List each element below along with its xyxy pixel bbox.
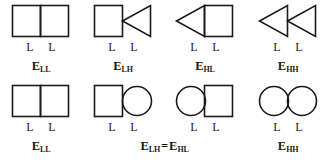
shape-pair-graphic [0, 82, 82, 120]
energy-equality-expression: ELH=EHL [140, 139, 188, 153]
sublabel-left: L [266, 120, 288, 134]
energy-label-row: EHL [164, 56, 246, 76]
shape-pair-graphic [0, 2, 82, 40]
energy-subscript-left: LH [149, 145, 160, 154]
sublabel-left: L [183, 40, 205, 54]
shape-pair-graphic [164, 2, 246, 40]
sublabel-right: L [123, 120, 145, 134]
energy-equality-label: ELH=EHL [82, 136, 247, 156]
energy-label-row: EHH [247, 136, 329, 156]
energy-base: E [32, 59, 40, 73]
shape-pair-graphic [82, 82, 164, 120]
energy-label: ELL [32, 139, 51, 153]
shape-pair-cell-ll-squares: L L ELL [0, 0, 82, 80]
sublabel-row: L L [0, 120, 82, 136]
square-triangle-left-icon [92, 2, 154, 40]
sublabel-left: L [101, 120, 123, 134]
shape-pair-cell-hl-triangle-square: L L EHL [164, 0, 246, 80]
sublabel-left: L [266, 40, 288, 54]
energy-label: EHL [195, 59, 215, 73]
sublabel-row: L L [0, 40, 82, 56]
energy-subscript: LH [122, 65, 133, 74]
energy-label: ELL [32, 59, 51, 73]
sublabel-right: L [288, 120, 310, 134]
energy-label-row: ELH [82, 56, 164, 76]
diagram-row-bottom: L L ELL L L [0, 80, 329, 160]
energy-base: E [278, 139, 286, 153]
shape-pair-cell-hh-triangles: L L EHH [247, 0, 329, 80]
energy-subscript-right: HL [177, 145, 188, 154]
sublabel-row: L L [164, 120, 246, 136]
shape-pair-cell-ll-squares-2: L L ELL [0, 80, 82, 160]
sublabel-row: L L [247, 120, 329, 136]
energy-state-shape-pairs-diagram: L L ELL L L ELH [0, 0, 329, 160]
sublabel-left: L [19, 120, 41, 134]
energy-base: E [113, 59, 121, 73]
energy-subscript: HH [286, 65, 298, 74]
sublabel-row: L L [164, 40, 246, 56]
energy-label: EHH [278, 59, 298, 73]
shape-pair-graphic [247, 82, 329, 120]
square-circle-icon [92, 82, 154, 120]
triangle-left-triangle-left-icon [257, 2, 319, 40]
sublabel-right: L [205, 40, 227, 54]
equals-sign: = [160, 139, 169, 153]
shape-pair-graphic [247, 2, 329, 40]
sublabel-right: L [41, 120, 63, 134]
energy-label-row: ELL [0, 136, 82, 156]
shape-pair-graphic [164, 82, 246, 120]
sublabel-row: L L [82, 40, 164, 56]
shape-pair-cell-lh-square-triangle: L L ELH [82, 0, 164, 80]
sublabel-left: L [183, 120, 205, 134]
sublabel-row: L L [82, 120, 164, 136]
energy-subscript: LL [40, 65, 50, 74]
energy-base: E [278, 59, 286, 73]
energy-label-row: EHH [247, 56, 329, 76]
diagram-row-top: L L ELL L L ELH [0, 0, 329, 80]
energy-subscript: HH [286, 145, 298, 154]
square-square-icon [10, 2, 72, 40]
sublabel-left: L [19, 40, 41, 54]
sublabel-right: L [205, 120, 227, 134]
energy-label: EHH [278, 139, 298, 153]
shape-pair-cell-hh-circles: L L EHH [247, 80, 329, 160]
circle-square-icon [174, 82, 236, 120]
energy-base: E [32, 139, 40, 153]
energy-subscript: HL [204, 65, 215, 74]
energy-subscript: LL [40, 145, 50, 154]
energy-base: E [195, 59, 203, 73]
sublabel-row: L L [247, 40, 329, 56]
sublabel-left: L [101, 40, 123, 54]
circle-circle-icon [257, 82, 319, 120]
energy-base-left: E [140, 139, 148, 153]
shape-pair-graphic [82, 2, 164, 40]
square-square-icon [10, 82, 72, 120]
triangle-left-square-icon [174, 2, 236, 40]
sublabel-right: L [123, 40, 145, 54]
energy-label: ELH [113, 59, 133, 73]
energy-label-row: ELL [0, 56, 82, 76]
sublabel-right: L [288, 40, 310, 54]
sublabel-right: L [41, 40, 63, 54]
